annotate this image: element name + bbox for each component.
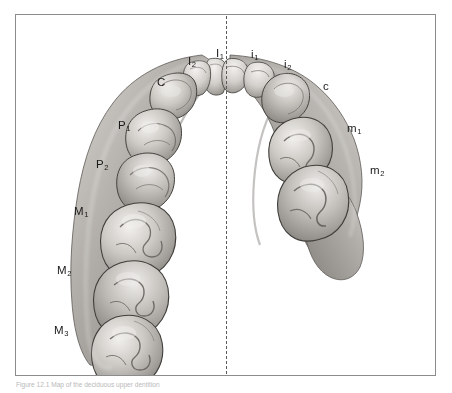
figure-caption: Figure 12.1 Map of the deciduous upper d… (16, 381, 436, 389)
midline-axis (226, 16, 227, 374)
dental-arch-illustration: I2 I1 C P1 P2 M1 M2 M3 i1 i2 c m1 m2 (16, 15, 435, 375)
label-C: C (157, 77, 166, 89)
label-I2: I2 (188, 56, 196, 68)
label-c: c (323, 81, 329, 93)
label-i2: i2 (284, 59, 291, 71)
label-P2: P2 (96, 159, 108, 171)
figure-page: I2 I1 C P1 P2 M1 M2 M3 i1 i2 c m1 m2 Fig… (0, 0, 452, 393)
label-m1: m1 (347, 123, 361, 135)
tooth-right-m2 (278, 165, 349, 241)
label-P1: P1 (118, 120, 130, 132)
label-i1: i1 (251, 49, 258, 61)
label-M3: M3 (54, 325, 68, 337)
label-I1: I1 (216, 48, 224, 60)
label-m2: m2 (370, 165, 384, 177)
label-M1: M1 (74, 206, 88, 218)
figure-frame: I2 I1 C P1 P2 M1 M2 M3 i1 i2 c m1 m2 (15, 14, 436, 376)
label-M2: M2 (57, 265, 71, 277)
